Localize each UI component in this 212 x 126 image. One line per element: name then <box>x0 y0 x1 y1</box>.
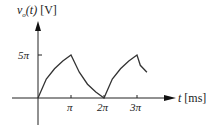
y-tick-label: 5π <box>18 50 29 61</box>
y-axis-label: vo(t) [V] <box>17 4 57 19</box>
x-tick-label: π <box>67 102 73 113</box>
x-axis-arrow-icon <box>164 95 176 101</box>
x-axis-label: t [ms] <box>178 92 206 104</box>
y-axis-arrow-icon <box>35 21 41 31</box>
x-tick-label: 3π <box>130 102 141 113</box>
x-tick-label: 2π <box>97 102 108 113</box>
waveform-line <box>38 55 147 98</box>
